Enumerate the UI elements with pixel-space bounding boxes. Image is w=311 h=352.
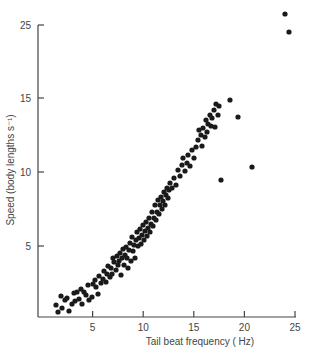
y-tick-label: 10 [20,167,32,178]
data-point [212,124,217,129]
data-point [95,291,100,296]
data-point [109,271,114,276]
data-point [249,164,254,169]
data-point [167,180,172,185]
x-tick-label: 25 [289,322,301,333]
data-point [209,115,214,120]
y-tick-label: 25 [20,20,32,31]
data-point [64,295,69,300]
data-point [218,177,223,182]
x-tick-label: 5 [90,322,96,333]
data-point [92,277,97,282]
data-points [53,11,291,314]
data-point [83,292,88,297]
data-point [173,182,178,187]
data-point [76,296,81,301]
data-point [286,29,291,34]
data-point [211,107,216,112]
data-point [53,302,58,307]
data-point [85,282,90,287]
data-point [216,103,221,108]
data-point [202,134,207,139]
data-point [55,309,60,314]
x-tick-label: 20 [239,322,251,333]
data-point [89,294,94,299]
data-point [58,293,63,298]
data-point [132,255,137,260]
data-point [125,265,130,270]
data-point [93,284,98,289]
data-point [227,97,232,102]
data-point [235,114,240,119]
data-point [156,211,161,216]
data-point [199,143,204,148]
data-point [171,175,176,180]
scatter-chart: 5101525 510152025 Tail beat frequency ( … [0,0,311,352]
data-point [108,265,113,270]
data-point [149,209,154,214]
data-point [191,155,196,160]
data-point [200,125,205,130]
data-point [185,152,190,157]
y-axis-label: Speed (body lengths s⁻¹) [5,114,16,225]
data-point [153,217,158,222]
data-point [150,223,155,228]
data-point [118,272,123,277]
x-axis-label: Tail beat frequency ( Hz) [146,336,254,347]
y-axis: 5101525 [20,20,44,317]
data-point [182,168,187,173]
x-axis: 510152025 [38,311,301,333]
x-tick-label: 10 [138,322,150,333]
data-point [66,308,71,313]
data-point [195,137,200,142]
data-point [193,144,198,149]
data-point [79,301,84,306]
data-point [146,215,151,220]
data-point [162,202,167,207]
data-point [179,162,184,167]
data-point [204,129,209,134]
data-point [152,202,157,207]
data-point [103,279,108,284]
data-point [282,11,287,16]
data-point [177,173,182,178]
data-point [215,112,220,117]
data-point [59,305,64,310]
data-point [180,155,185,160]
data-point [113,267,118,272]
data-point [147,229,152,234]
x-tick-label: 15 [188,322,200,333]
data-point [165,195,170,200]
y-tick-label: 5 [25,241,31,252]
data-point [175,167,180,172]
data-point [187,163,192,168]
data-point [130,248,135,253]
y-tick-label: 15 [20,93,32,104]
